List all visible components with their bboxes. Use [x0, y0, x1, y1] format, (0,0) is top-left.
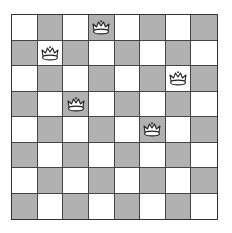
square-r4-c0: [12, 117, 38, 143]
square-r2-c0: [12, 66, 38, 92]
square-r5-c6: [166, 143, 192, 169]
square-r3-c7: [191, 92, 217, 118]
square-r3-c2: [63, 92, 89, 118]
square-r5-c0: [12, 143, 38, 169]
square-r7-c4: [115, 194, 141, 220]
square-r6-c2: [63, 168, 89, 194]
square-r2-c6: [166, 66, 192, 92]
square-r1-c1: [38, 41, 64, 67]
square-r2-c1: [38, 66, 64, 92]
square-r0-c4: [115, 15, 141, 41]
queen-crown-icon: [91, 19, 111, 35]
square-r5-c1: [38, 143, 64, 169]
square-r5-c4: [115, 143, 141, 169]
square-r7-c7: [191, 194, 217, 220]
square-r4-c5: [140, 117, 166, 143]
square-r0-c5: [140, 15, 166, 41]
square-r4-c4: [115, 117, 141, 143]
square-r3-c0: [12, 92, 38, 118]
square-r5-c2: [63, 143, 89, 169]
square-r0-c3: [89, 15, 115, 41]
square-r6-c0: [12, 168, 38, 194]
square-r1-c5: [140, 41, 166, 67]
square-r6-c7: [191, 168, 217, 194]
square-r7-c5: [140, 194, 166, 220]
square-r1-c2: [63, 41, 89, 67]
square-r5-c3: [89, 143, 115, 169]
square-r3-c4: [115, 92, 141, 118]
square-r6-c3: [89, 168, 115, 194]
square-r0-c1: [38, 15, 64, 41]
square-r0-c6: [166, 15, 192, 41]
square-r5-c5: [140, 143, 166, 169]
square-r1-c0: [12, 41, 38, 67]
square-r2-c7: [191, 66, 217, 92]
square-r3-c6: [166, 92, 192, 118]
square-r0-c7: [191, 15, 217, 41]
square-r0-c0: [12, 15, 38, 41]
square-r2-c3: [89, 66, 115, 92]
square-r7-c1: [38, 194, 64, 220]
square-r3-c1: [38, 92, 64, 118]
chessboard: [11, 14, 218, 220]
queen-crown-icon: [168, 70, 188, 86]
square-r1-c7: [191, 41, 217, 67]
square-r4-c6: [166, 117, 192, 143]
queen-crown-icon: [66, 96, 86, 112]
square-r1-c3: [89, 41, 115, 67]
square-r7-c6: [166, 194, 192, 220]
square-r6-c6: [166, 168, 192, 194]
square-r6-c4: [115, 168, 141, 194]
square-r7-c3: [89, 194, 115, 220]
square-r2-c4: [115, 66, 141, 92]
square-r3-c5: [140, 92, 166, 118]
square-r5-c7: [191, 143, 217, 169]
square-r1-c4: [115, 41, 141, 67]
queen-crown-icon: [40, 45, 60, 61]
square-r4-c3: [89, 117, 115, 143]
square-r7-c0: [12, 194, 38, 220]
square-r7-c2: [63, 194, 89, 220]
square-r0-c2: [63, 15, 89, 41]
square-r4-c1: [38, 117, 64, 143]
square-r3-c3: [89, 92, 115, 118]
square-r6-c5: [140, 168, 166, 194]
square-r4-c7: [191, 117, 217, 143]
square-r4-c2: [63, 117, 89, 143]
square-r2-c5: [140, 66, 166, 92]
square-r2-c2: [63, 66, 89, 92]
queen-crown-icon: [142, 121, 162, 137]
square-r6-c1: [38, 168, 64, 194]
square-r1-c6: [166, 41, 192, 67]
